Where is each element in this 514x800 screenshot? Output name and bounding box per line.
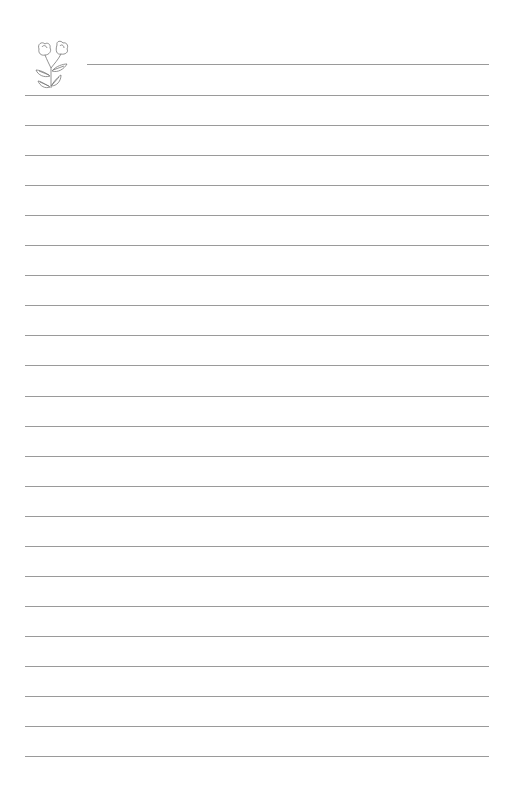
rule-line	[25, 125, 489, 126]
rule-line	[25, 486, 489, 487]
rule-line	[25, 275, 489, 276]
rule-line	[25, 426, 489, 427]
rule-line	[25, 636, 489, 637]
rule-line	[25, 696, 489, 697]
rule-line	[25, 666, 489, 667]
rule-line	[25, 606, 489, 607]
rule-line	[25, 155, 489, 156]
rule-line	[25, 335, 489, 336]
rule-line	[25, 456, 489, 457]
rule-line	[25, 245, 489, 246]
lined-paper-page	[0, 0, 514, 800]
rule-line	[25, 215, 489, 216]
rule-line	[25, 305, 489, 306]
rule-line	[25, 576, 489, 577]
rule-line	[25, 185, 489, 186]
rule-line	[25, 365, 489, 366]
rule-line	[25, 546, 489, 547]
rule-line	[25, 95, 489, 96]
ruled-lines	[0, 0, 514, 800]
rule-line	[25, 726, 489, 727]
rule-line	[25, 396, 489, 397]
rule-line	[25, 516, 489, 517]
rule-line	[25, 756, 489, 757]
